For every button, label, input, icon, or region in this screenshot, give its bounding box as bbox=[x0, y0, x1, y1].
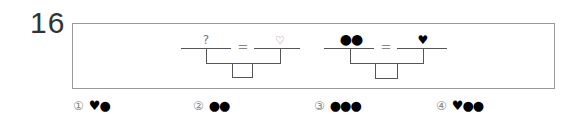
outline-heart-icon: ♡ bbox=[270, 35, 290, 47]
choice-value: ♥● bbox=[89, 98, 110, 113]
choice-value: ●●● bbox=[330, 98, 361, 113]
right-bracket-l bbox=[350, 48, 351, 63]
choice-number: ② bbox=[193, 99, 204, 113]
right-answer-box bbox=[375, 63, 398, 79]
question-mark: ? bbox=[196, 34, 216, 46]
right-top-line-1 bbox=[324, 48, 374, 49]
choice-number: ④ bbox=[436, 99, 447, 113]
two-dots-icon: ●● bbox=[336, 33, 366, 45]
filled-heart-icon: ♥ bbox=[413, 34, 433, 46]
right-top-line-2 bbox=[397, 48, 447, 49]
left-answer-box bbox=[232, 63, 253, 78]
choice-value: ♥●● bbox=[452, 98, 483, 113]
question-number: 16 bbox=[30, 6, 65, 40]
equals-sign: = bbox=[376, 41, 396, 53]
choice-4[interactable]: ④ ♥●● bbox=[436, 98, 483, 113]
choice-1[interactable]: ① ♥● bbox=[73, 98, 110, 113]
right-bracket-r bbox=[423, 48, 424, 63]
diagram-box bbox=[72, 23, 555, 89]
left-top-line-2 bbox=[254, 48, 300, 49]
left-bracket-l bbox=[206, 48, 207, 63]
left-bracket-r bbox=[280, 48, 281, 63]
equals-sign: = bbox=[233, 41, 253, 53]
choice-3[interactable]: ③ ●●● bbox=[314, 98, 361, 113]
choice-number: ① bbox=[73, 99, 84, 113]
choice-number: ③ bbox=[314, 99, 325, 113]
choice-2[interactable]: ② ●● bbox=[193, 98, 229, 113]
choice-value: ●● bbox=[209, 98, 230, 113]
